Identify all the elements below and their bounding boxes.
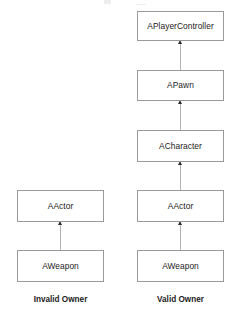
class-box-label: AActor [168,202,193,210]
inheritance-connector-aweapon-to-aactor [60,222,61,250]
class-box-label: AWeapon [162,262,199,270]
class-box-acharacter[interactable]: ACharacter [137,130,224,162]
class-box-aweapon-valid[interactable]: AWeapon [137,250,224,282]
class-box-label: APlayerController [147,22,213,30]
top-edge-artifact [104,0,111,4]
class-box-aplayercontroller[interactable]: APlayerController [137,11,224,41]
class-box-label: AWeapon [42,262,79,270]
inheritance-connector-apawn-to-aplayercontroller [180,41,181,70]
class-box-aactor-invalid[interactable]: AActor [17,190,104,222]
caption-invalid-owner: Invalid Owner [0,296,121,304]
class-box-label: APawn [167,81,194,89]
class-box-label: AActor [48,202,73,210]
class-box-aweapon-invalid[interactable]: AWeapon [17,250,104,282]
uml-inheritance-diagram: AActor AWeapon Invalid Owner APlayerCont… [0,0,233,314]
class-box-apawn[interactable]: APawn [137,70,224,101]
top-edge-artifact-line [136,4,146,5]
inheritance-connector-aactor-to-acharacter [180,162,181,190]
caption-valid-owner: Valid Owner [120,296,233,304]
inheritance-connector-acharacter-to-apawn [180,101,181,130]
class-box-label: ACharacter [159,142,202,150]
inheritance-connector-aweapon-to-aactor-valid [180,222,181,250]
class-box-aactor-valid[interactable]: AActor [137,190,224,222]
